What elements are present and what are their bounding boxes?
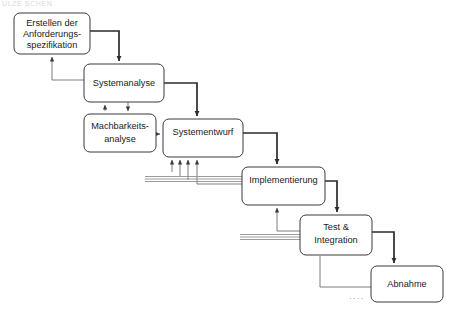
node-label-anforderung-line1: Erstellen der [26, 18, 78, 28]
node-label-anforderung-line2: Anforderungs- [23, 29, 81, 39]
node-machbarkeitsanalyse[interactable]: Machbarkeits- analyse [84, 114, 156, 152]
edge-systemanalyse-to-anforderung [52, 57, 84, 80]
edge-implementierung-to-test [325, 181, 337, 212]
node-label-machbarkeit-line1: Machbarkeits- [91, 121, 149, 131]
edge-test-to-implementierung [240, 208, 300, 240]
edge-abnahme-to-test [320, 256, 371, 287]
diagram-canvas: Erstellen der Anforderungs- spezifikatio… [0, 0, 456, 323]
node-label-systementwurf: Systementwurf [173, 127, 234, 137]
ellipsis-label: .... [349, 291, 365, 301]
node-label-machbarkeit-line2: analyse [104, 134, 136, 144]
edge-systementwurf-to-implementierung [243, 133, 277, 164]
node-label-abnahme: Abnahme [387, 279, 426, 289]
node-abnahme[interactable]: Abnahme [371, 266, 443, 302]
node-label-anforderung-line3: spezifikation [27, 40, 78, 50]
node-test-integration[interactable]: Test & Integration [300, 215, 372, 255]
node-systementwurf[interactable]: Systementwurf [163, 119, 243, 157]
node-implementierung[interactable]: Implementierung [242, 167, 325, 205]
waterfall-diagram: ULZE SCHEN [0, 0, 456, 323]
node-systemanalyse[interactable]: Systemanalyse [84, 64, 164, 102]
node-label-implementierung: Implementierung [249, 175, 317, 185]
edge-systemanalyse-to-systementwurf [164, 83, 197, 116]
node-label-test-line1: Test & [323, 222, 349, 232]
node-label-systemanalyse: Systemanalyse [93, 78, 155, 88]
edge-implementierung-to-systementwurf [145, 160, 242, 184]
node-label-test-line2: Integration [314, 235, 357, 245]
node-anforderungsspezifikation[interactable]: Erstellen der Anforderungs- spezifikatio… [14, 13, 90, 54]
edge-test-to-abnahme [372, 232, 394, 263]
edge-anforderung-to-systemanalyse [90, 31, 119, 61]
